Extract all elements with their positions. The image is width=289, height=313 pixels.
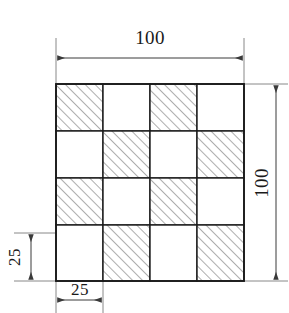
cell-r1c1 bbox=[56, 84, 103, 131]
cell-r4c4 bbox=[197, 225, 244, 281]
cell-r2c1 bbox=[56, 131, 103, 178]
cell-r1c4 bbox=[197, 84, 244, 131]
cell-r4c3 bbox=[150, 225, 197, 281]
grid-cells bbox=[56, 84, 244, 281]
cell-r2c2 bbox=[103, 131, 150, 178]
cell-r1c3 bbox=[150, 84, 197, 131]
dimension-label-bottom: 25 bbox=[71, 280, 89, 299]
cell-r3c1 bbox=[56, 178, 103, 225]
cell-r1c2 bbox=[103, 84, 150, 131]
cell-r4c2 bbox=[103, 225, 150, 281]
cell-r2c4 bbox=[197, 131, 244, 178]
dimension-label-left: 25 bbox=[5, 248, 24, 266]
dimension-label-right: 100 bbox=[251, 168, 272, 198]
dimension-label-top: 100 bbox=[135, 27, 165, 48]
technical-drawing: 100 100 25 25 bbox=[0, 0, 289, 313]
cell-r4c1 bbox=[56, 225, 103, 281]
cell-r2c3 bbox=[150, 131, 197, 178]
cell-r3c3 bbox=[150, 178, 197, 225]
cell-r3c4 bbox=[197, 178, 244, 225]
cell-r3c2 bbox=[103, 178, 150, 225]
drawing-canvas: 100 100 25 25 bbox=[0, 0, 289, 313]
